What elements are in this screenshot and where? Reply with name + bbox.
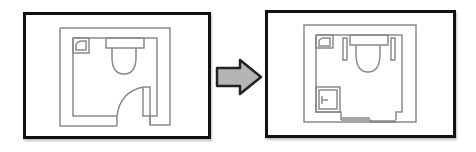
after-plan bbox=[304, 25, 416, 122]
floorplan-diagram bbox=[0, 0, 476, 152]
before-toilet-tank-icon bbox=[106, 38, 144, 48]
before-plan bbox=[60, 28, 170, 126]
before-corner-shelf-icon bbox=[73, 38, 89, 53]
transition-arrow-icon bbox=[217, 60, 261, 94]
after-toilet-tank-icon bbox=[350, 35, 388, 45]
before-toilet-bowl-icon bbox=[112, 48, 136, 74]
after-corner-shelf-icon bbox=[316, 35, 333, 48]
before-door-arc-icon bbox=[117, 87, 143, 126]
after-toilet-bowl-icon bbox=[356, 45, 380, 72]
after-grab-bar-left-icon bbox=[343, 38, 347, 60]
after-grab-bar-right-icon bbox=[391, 38, 395, 60]
after-cabinet-handle-icon bbox=[322, 96, 328, 104]
before-door-jamb bbox=[143, 87, 150, 125]
